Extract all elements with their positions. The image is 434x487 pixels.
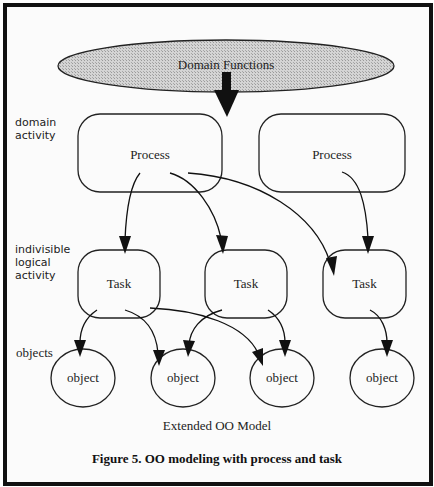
- edge-process1-task3: [188, 173, 330, 262]
- object-label-3: object: [250, 370, 314, 386]
- bold-arrow-shaft: [222, 72, 231, 92]
- object-label-2: object: [151, 370, 215, 386]
- edge-process1-task1: [125, 173, 140, 240]
- edge-task1-object3: [150, 308, 258, 353]
- row-label-objects: objects: [16, 345, 53, 361]
- process-label-2: Process: [259, 147, 405, 163]
- edge-process1-task2: [170, 173, 221, 238]
- bold-arrow-head: [214, 90, 239, 117]
- arrowhead: [119, 236, 131, 254]
- row-label-line: domain: [15, 116, 56, 129]
- row-label-line: indivisible: [15, 243, 70, 256]
- row-label-line: activity: [15, 269, 70, 282]
- task-label-1: Task: [78, 276, 160, 292]
- object-label-1: object: [51, 370, 115, 386]
- model-title: Extended OO Model: [0, 418, 434, 434]
- edge-process2-task3: [342, 172, 368, 238]
- edge-task1-object2: [125, 310, 158, 353]
- domain-functions-label: Domain Functions: [150, 57, 302, 73]
- row-label-line: logical: [15, 256, 70, 269]
- row-label-line: activity: [15, 129, 56, 142]
- task-label-2: Task: [205, 276, 287, 292]
- task-label-3: Task: [323, 276, 406, 292]
- process-label-1: Process: [78, 147, 222, 163]
- row-label-logical-activity: indivisible logical activity: [15, 243, 70, 282]
- arrowhead: [326, 256, 337, 276]
- edge-task3-object4: [370, 310, 387, 343]
- figure-caption: Figure 5. OO modeling with process and t…: [0, 451, 434, 467]
- object-label-4: object: [350, 370, 414, 386]
- arrowhead: [362, 236, 374, 254]
- row-label-domain-activity: domain activity: [15, 116, 56, 142]
- arrowhead: [216, 235, 228, 254]
